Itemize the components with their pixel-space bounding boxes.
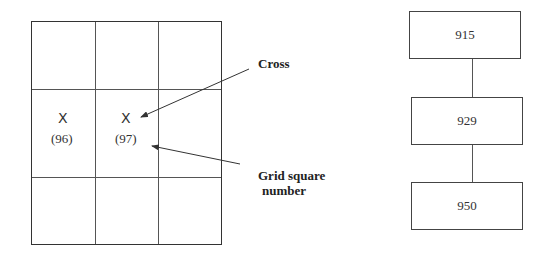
arrow-to-grid-number: [152, 146, 240, 164]
grid-square-label-line2: number: [258, 183, 325, 198]
grid-square-label: Grid square number: [258, 168, 325, 198]
flow-connector: [472, 59, 473, 97]
cross-label: Cross: [258, 56, 290, 71]
flow-box-929: 929: [411, 97, 523, 145]
flow-box-915: 915: [409, 11, 521, 59]
flow-connector: [472, 145, 473, 182]
arrow-to-cross: [141, 69, 249, 117]
flow-box-950: 950: [411, 182, 523, 230]
grid-square-label-line1: Grid square: [258, 168, 325, 183]
